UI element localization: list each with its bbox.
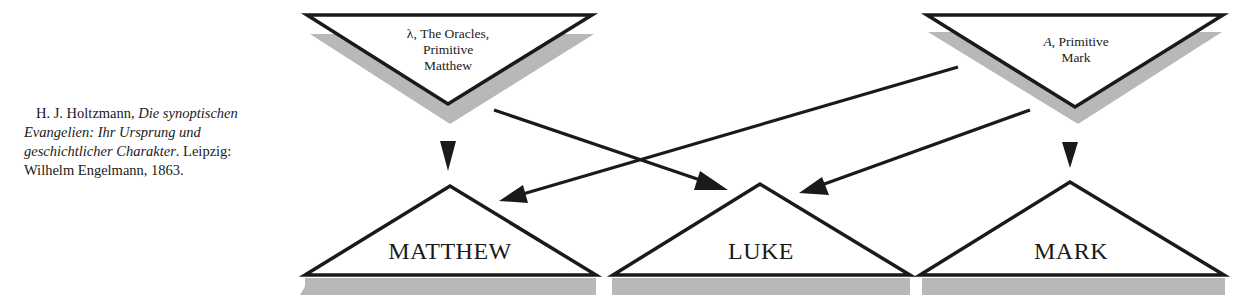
citation-author: H. J. Holtzmann, xyxy=(36,105,138,121)
matthew-label: MATTHEW xyxy=(350,238,550,265)
luke-label: LUKE xyxy=(661,238,861,265)
luke-shadow xyxy=(612,278,910,295)
a-label-rest: , Primitive xyxy=(1052,34,1109,49)
lambda-label-line-3: Matthew xyxy=(348,58,548,74)
arrow-a-to-mark xyxy=(1062,142,1078,168)
arrow-a-to-matthew-line xyxy=(516,67,958,196)
a-label-line-1: A, Primitive xyxy=(976,34,1176,50)
mark-shadow xyxy=(922,278,1225,295)
lambda-label-rest: , The Oracles, xyxy=(413,26,489,41)
a-source-label: A, Primitive Mark xyxy=(976,34,1176,66)
citation-line-4: Wilhelm Engelmann, 1863. xyxy=(24,161,334,180)
citation-title-1: Die synoptischen xyxy=(138,105,237,121)
citation-line-3: geschichtlicher Charakter. Leipzig: xyxy=(24,142,334,161)
arrow-a-to-luke-head xyxy=(799,177,829,195)
arrow-lambda-to-luke-head xyxy=(694,171,728,190)
citation-line-1: H. J. Holtzmann, Die synoptischen xyxy=(24,104,334,123)
lambda-label-line-2: Primitive xyxy=(348,42,548,58)
citation-line-2: Evangelien: Ihr Ursprung und xyxy=(24,123,334,142)
arrow-a-to-luke-line xyxy=(816,110,1030,187)
citation: H. J. Holtzmann, Die synoptischen Evange… xyxy=(24,104,334,180)
lambda-source-label: λ, The Oracles, Primitive Matthew xyxy=(348,26,548,74)
a-symbol: A xyxy=(1043,34,1051,49)
matthew-shadow xyxy=(305,278,596,295)
citation-publisher-2: Wilhelm Engelmann, 1863. xyxy=(24,162,184,178)
arrow-a-to-matthew-head xyxy=(499,185,528,203)
a-label-line-2: Mark xyxy=(976,50,1176,66)
citation-title-3: geschichtlicher Charakter xyxy=(24,143,176,159)
mark-label: MARK xyxy=(971,238,1171,265)
citation-title-2: Evangelien: Ihr Ursprung und xyxy=(24,124,201,140)
lambda-label-line-1: λ, The Oracles, xyxy=(348,26,548,42)
citation-publisher-1: . Leipzig: xyxy=(176,143,232,159)
